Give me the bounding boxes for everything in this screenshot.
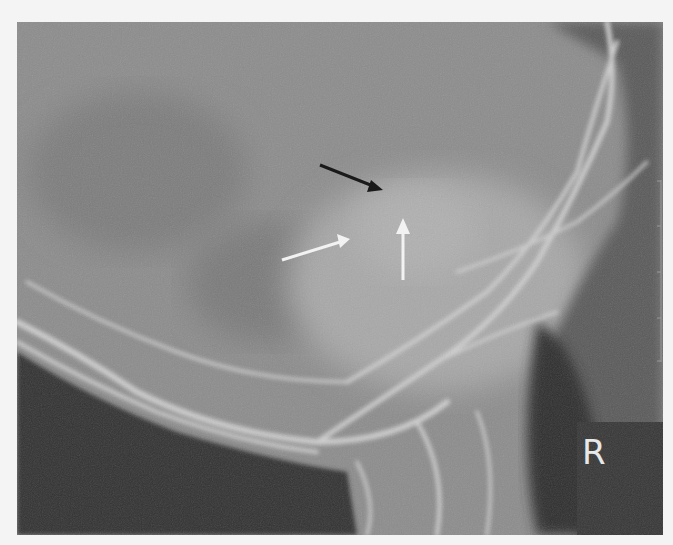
side-marker-label: R (582, 432, 606, 472)
scale-bar (657, 180, 663, 362)
xray-graphic (17, 22, 663, 535)
xray-image: R (17, 22, 663, 535)
